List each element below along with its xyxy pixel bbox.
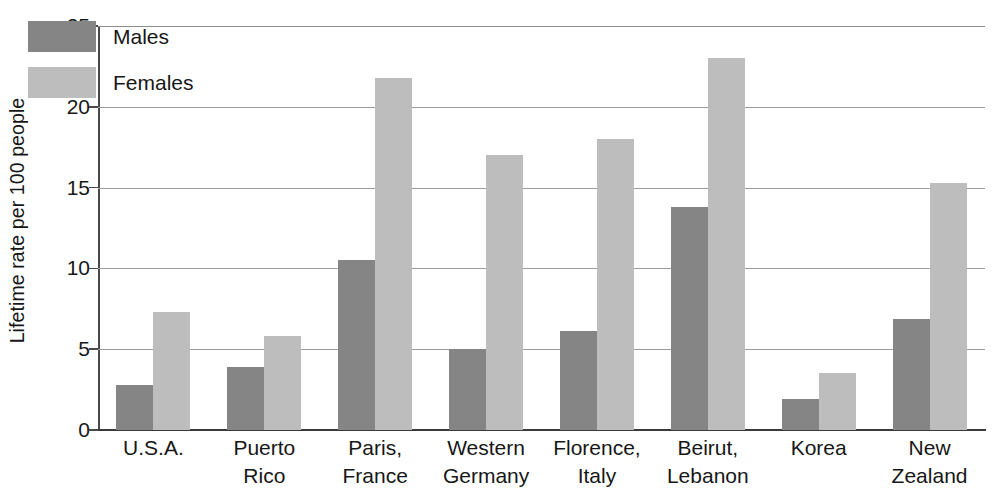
x-axis-label-line: Puerto <box>209 434 320 462</box>
bar-females-1 <box>264 336 301 430</box>
x-axis-label-line: Germany <box>431 462 542 490</box>
x-axis-label-line: Korea <box>763 434 874 462</box>
bar-males-0 <box>116 385 153 430</box>
bar-females-6 <box>819 373 856 430</box>
bar-chart: Lifetime rate per 100 people 0510152025 … <box>0 0 1002 501</box>
x-axis-label-4: Florence,Italy <box>542 434 653 490</box>
legend-item-females[interactable]: Females <box>28 63 238 101</box>
y-axis-title-text: Lifetime rate per 100 people <box>7 97 30 343</box>
bar-females-3 <box>486 155 523 430</box>
gridline-15 <box>98 188 985 189</box>
x-axis-label-1: PuertoRico <box>209 434 320 490</box>
legend-swatch-females <box>28 67 96 98</box>
x-axis-label-line: Rico <box>209 462 320 490</box>
tick-mark-10 <box>89 268 98 270</box>
tick-mark-0 <box>89 429 98 431</box>
bar-females-2 <box>375 78 412 430</box>
legend-swatch-males <box>28 21 96 52</box>
x-axis-label-line: Italy <box>542 462 653 490</box>
gridline-5 <box>98 349 985 350</box>
gridline-10 <box>98 268 985 269</box>
x-axis-label-line: Zealand <box>874 462 985 490</box>
x-axis-label-7: NewZealand <box>874 434 985 490</box>
legend-label-females: Females <box>113 72 194 93</box>
tick-mark-15 <box>89 187 98 189</box>
bar-females-4 <box>597 139 634 430</box>
y-tick-label-0: 0 <box>46 418 90 442</box>
bar-females-5 <box>708 58 745 430</box>
x-axis-label-0: U.S.A. <box>98 434 209 462</box>
x-axis-label-line: Western <box>431 434 542 462</box>
x-axis-label-line: Beirut, <box>652 434 763 462</box>
bar-males-3 <box>449 349 486 430</box>
legend: MalesFemales <box>28 17 238 109</box>
x-axis-label-line: France <box>320 462 431 490</box>
x-axis-labels: U.S.A.PuertoRicoParis,FranceWesternGerma… <box>98 434 985 501</box>
legend-item-males[interactable]: Males <box>28 17 238 55</box>
x-axis-label-3: WesternGermany <box>431 434 542 490</box>
x-axis-label-line: New <box>874 434 985 462</box>
y-tick-label-10: 10 <box>46 256 90 280</box>
x-axis-label-line: Paris, <box>320 434 431 462</box>
bar-males-2 <box>338 260 375 430</box>
bar-males-6 <box>782 399 819 430</box>
y-tick-label-5: 5 <box>46 337 90 361</box>
x-axis-label-line: U.S.A. <box>98 434 209 462</box>
x-axis-label-2: Paris,France <box>320 434 431 490</box>
tick-mark-5 <box>89 348 98 350</box>
legend-label-males: Males <box>113 26 169 47</box>
x-axis-label-6: Korea <box>763 434 874 462</box>
bar-males-4 <box>560 331 597 430</box>
bar-males-5 <box>671 207 708 430</box>
x-axis-label-line: Lebanon <box>652 462 763 490</box>
y-tick-label-15: 15 <box>46 176 90 200</box>
bar-males-1 <box>227 367 264 430</box>
x-axis-label-line: Florence, <box>542 434 653 462</box>
x-axis-label-5: Beirut,Lebanon <box>652 434 763 490</box>
bar-females-0 <box>153 312 190 430</box>
bar-females-7 <box>930 183 967 430</box>
bar-males-7 <box>893 319 930 431</box>
